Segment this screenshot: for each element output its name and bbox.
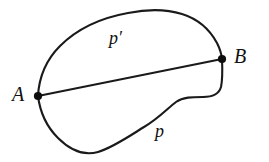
point-b-dot [218, 55, 226, 63]
point-a-label: A [12, 84, 24, 104]
point-b-label: B [234, 46, 246, 66]
arc-p-lower [38, 59, 222, 153]
arc-p-prime-upper [38, 10, 222, 96]
point-a-dot [34, 92, 42, 100]
curve-canvas [0, 0, 269, 162]
arc-p-prime-label: p′ [109, 29, 122, 47]
closed-curve-figure: A B p′ p [0, 0, 269, 162]
arc-p-label: p [155, 122, 164, 140]
